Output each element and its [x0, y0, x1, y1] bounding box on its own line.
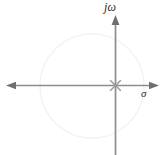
- vertical-axis-label: jω: [104, 1, 116, 13]
- left-arrow-icon: [6, 82, 16, 90]
- horizontal-axis-label: σ: [141, 88, 146, 99]
- up-arrow-icon: [112, 15, 120, 25]
- right-arrow-icon: [149, 82, 159, 90]
- s-plane-figure: jω σ: [0, 0, 167, 155]
- s-plane-canvas: [0, 0, 167, 155]
